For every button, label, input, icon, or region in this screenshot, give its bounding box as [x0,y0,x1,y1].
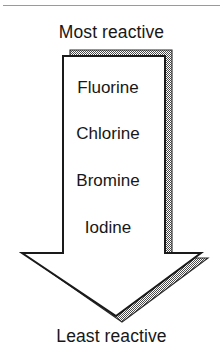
element-label-bromine: Bromine [63,171,153,191]
element-label-iodine: Iodine [63,218,153,238]
least-reactive-caption: Least reactive [0,326,223,346]
element-label-chlorine: Chlorine [63,124,153,144]
element-label-fluorine: Fluorine [63,78,153,98]
halogen-reactivity-diagram: Most reactive Fluorine Chlorine Bromine … [0,0,223,362]
